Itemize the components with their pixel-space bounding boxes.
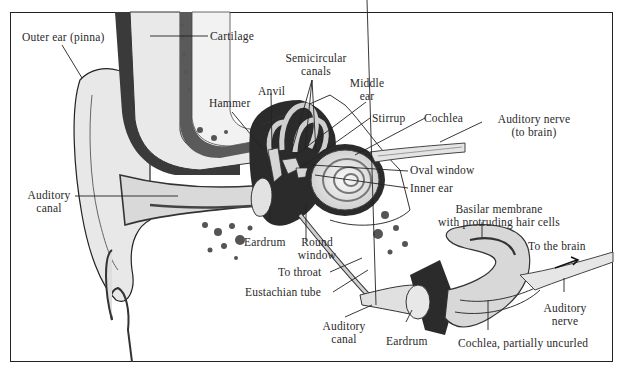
label-to-the-brain: To the brain	[528, 240, 586, 253]
label-cochlea: Cochlea	[424, 112, 463, 125]
label-inset-auditory-canal: Auditory canal	[318, 320, 370, 346]
label-stirrup: Stirrup	[372, 112, 405, 125]
label-cochlea-uncurled: Cochlea, partially uncurled	[458, 337, 588, 350]
label-round-window-line2: window	[294, 249, 340, 262]
label-cartilage: Cartilage	[210, 30, 254, 43]
label-inset-auditory-nerve-line1: Auditory	[540, 302, 590, 315]
label-auditory-canal-line1: Auditory	[24, 189, 74, 202]
label-basilar-line2: with protruding hair cells	[434, 216, 564, 229]
auditory-canal-shape	[120, 175, 265, 225]
label-anvil: Anvil	[258, 85, 285, 98]
label-round-window-line1: Round	[294, 236, 340, 249]
eardrum-shape	[251, 178, 272, 216]
label-middle-ear-line1: Middle	[346, 77, 388, 90]
label-oval-window: Oval window	[410, 164, 474, 177]
label-basilar-line1: Basilar membrane	[434, 203, 564, 216]
label-inset-auditory-nerve-line2: nerve	[540, 315, 590, 328]
label-inset-auditory-canal-line2: canal	[318, 333, 370, 346]
label-round-window: Round window	[294, 236, 340, 262]
label-inset-auditory-canal-line1: Auditory	[318, 320, 370, 333]
label-semicircular-canals: Semicircular canals	[280, 52, 352, 78]
label-middle-ear: Middle ear	[346, 77, 388, 103]
label-inner-ear: Inner ear	[410, 182, 453, 195]
label-auditory-nerve-line2: (to brain)	[486, 126, 582, 139]
label-auditory-canal: Auditory canal	[24, 189, 74, 215]
label-inset-auditory-nerve: Auditory nerve	[540, 302, 590, 328]
label-auditory-nerve: Auditory nerve (to brain)	[486, 113, 582, 139]
label-inset-eardrum: Eardrum	[386, 335, 428, 348]
label-eustachian-tube: Eustachian tube	[245, 286, 321, 299]
label-auditory-canal-line2: canal	[24, 202, 74, 215]
label-eardrum: Eardrum	[244, 236, 286, 249]
label-auditory-nerve-line1: Auditory nerve	[486, 113, 582, 126]
label-to-throat: To throat	[278, 266, 321, 279]
label-middle-ear-line2: ear	[346, 90, 388, 103]
label-outer-ear: Outer ear (pinna)	[22, 31, 105, 44]
label-basilar-membrane: Basilar membrane with protruding hair ce…	[434, 203, 564, 229]
label-hammer: Hammer	[209, 97, 250, 110]
auditory-nerve-shape	[370, 143, 465, 162]
label-semicircular-line1: Semicircular	[280, 52, 352, 65]
label-semicircular-line2: canals	[280, 65, 352, 78]
